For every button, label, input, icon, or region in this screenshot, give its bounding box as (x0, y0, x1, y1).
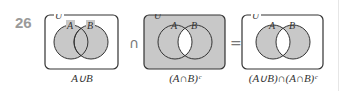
venn-diagram-union: U A B (44, 14, 120, 72)
caption-union: A∪B (44, 72, 120, 85)
problem-number: 26 (15, 14, 32, 31)
svg-text:U: U (154, 14, 162, 21)
caption-result: (A∪B)∩(A∩B)ᶜ (231, 72, 335, 85)
universe-label: U (55, 14, 63, 21)
page-border (338, 0, 339, 91)
equals-operator: = (230, 35, 242, 51)
svg-text:B: B (87, 20, 93, 31)
svg-text:U: U (252, 14, 260, 21)
intersect-operator: ∩ (129, 35, 139, 51)
svg-text:A: A (170, 20, 178, 31)
venn-diagram-complement: U A B (143, 14, 227, 72)
svg-text:A: A (268, 20, 276, 31)
caption-complement: (A∩B)ᶜ (143, 72, 227, 84)
venn-diagram-result: U A B (241, 14, 325, 72)
svg-text:B: B (191, 20, 197, 31)
svg-text:A: A (66, 20, 74, 31)
svg-text:B: B (289, 20, 295, 31)
